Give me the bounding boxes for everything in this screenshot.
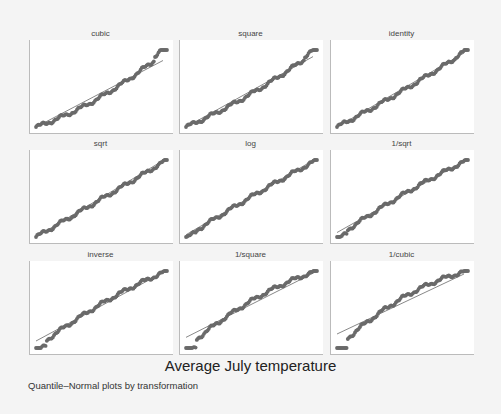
plot-area: [179, 40, 323, 134]
panel-title: 1/square: [179, 250, 322, 259]
plot-area: [330, 150, 474, 244]
plot-area: [29, 40, 173, 134]
panel-title: 1/sqrt: [330, 139, 473, 148]
chart-subtitle: Quantile–Normal plots by transformation: [28, 380, 198, 391]
qnorm-panel-1-over-cubic: 1/cubic: [330, 248, 473, 355]
plot-area: [179, 261, 323, 355]
reference-line: [186, 273, 313, 337]
panel-title: identity: [330, 29, 473, 38]
plot-area: [330, 40, 474, 134]
plot-area: [29, 150, 173, 244]
panel-title: sqrt: [29, 139, 172, 148]
chart-title: Average July temperature: [0, 357, 501, 374]
plot-area: [179, 150, 323, 244]
reference-line: [337, 274, 464, 334]
qnorm-panel-1-over-sqrt: 1/sqrt: [330, 137, 473, 244]
qnorm-panel-identity: identity: [330, 27, 473, 134]
panel-title: cubic: [29, 29, 172, 38]
panel-title: square: [179, 29, 322, 38]
qnorm-panel-square: square: [179, 27, 322, 134]
qnorm-panel-log: log: [179, 137, 322, 244]
panel-title: 1/cubic: [330, 250, 473, 259]
qnorm-panel-sqrt: sqrt: [29, 137, 172, 244]
qnorm-panel-cubic: cubic: [29, 27, 172, 134]
plot-area: [29, 261, 173, 355]
qnorm-panel-inverse: inverse: [29, 248, 172, 355]
plot-area: [330, 261, 474, 355]
panel-title: inverse: [29, 250, 172, 259]
qnorm-panel-1-over-square: 1/square: [179, 248, 322, 355]
panel-title: log: [179, 139, 322, 148]
